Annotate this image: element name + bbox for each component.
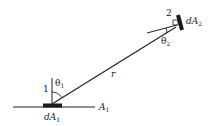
- label-2: 2: [166, 8, 172, 18]
- label-da1: dA1: [44, 112, 60, 123]
- right-angle-marker: [173, 20, 178, 25]
- label-theta1: θ1: [55, 78, 64, 89]
- patch-da2: [178, 15, 182, 30]
- label-da2: dA2: [186, 16, 202, 27]
- distance-line-r: [52, 27, 176, 104]
- label-theta2: θ2: [161, 36, 170, 47]
- label-1: 1: [43, 84, 49, 94]
- angle-arc-theta1: [52, 92, 62, 97]
- label-r: r: [111, 69, 116, 79]
- view-factor-diagram: 1 θ1 r 2 θ2 dA2 dA1 A1: [0, 0, 214, 126]
- label-a1: A1: [98, 102, 109, 113]
